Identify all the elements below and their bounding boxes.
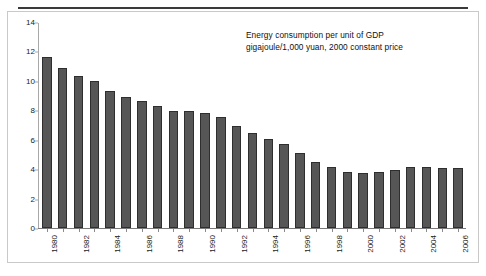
- bar: [311, 162, 320, 228]
- bar: [264, 139, 273, 228]
- bar: [105, 91, 114, 228]
- x-tick-label: 1998: [336, 235, 344, 253]
- x-tick-label: 1994: [272, 235, 280, 253]
- bar: [184, 111, 193, 228]
- x-tick-label: 1982: [83, 235, 91, 253]
- bar: [216, 117, 225, 228]
- y-tick-mark: [35, 52, 38, 53]
- chart-figure: Energy consumption per unit of GDP gigaj…: [0, 0, 486, 276]
- bar: [374, 172, 383, 228]
- x-tick-mark: [442, 229, 443, 232]
- bar: [121, 97, 130, 228]
- bar: [343, 172, 352, 228]
- x-tick-mark: [284, 229, 285, 232]
- x-tick-mark: [94, 229, 95, 232]
- x-tick-mark: [47, 229, 48, 232]
- x-tick-mark: [142, 229, 143, 232]
- y-tick-mark: [35, 170, 38, 171]
- y-tick-label: 12: [15, 48, 35, 56]
- x-tick-mark: [332, 229, 333, 232]
- bar-series: [39, 23, 466, 228]
- bar: [90, 81, 99, 228]
- bar: [453, 168, 462, 228]
- bar: [406, 167, 415, 228]
- x-tick-label: 2004: [430, 235, 438, 253]
- x-tick-mark: [63, 229, 64, 232]
- x-tick-mark: [221, 229, 222, 232]
- x-tick-mark: [426, 229, 427, 232]
- x-tick-mark: [79, 229, 80, 232]
- x-tick-mark: [126, 229, 127, 232]
- x-tick-mark: [173, 229, 174, 232]
- y-tick-mark: [35, 140, 38, 141]
- bar: [200, 113, 209, 228]
- y-tick-mark: [35, 111, 38, 112]
- x-tick-mark: [189, 229, 190, 232]
- y-tick-mark: [35, 199, 38, 200]
- y-tick-mark: [35, 81, 38, 82]
- bar: [279, 144, 288, 228]
- bar: [248, 133, 257, 228]
- x-tick-label: 1984: [114, 235, 122, 253]
- x-tick-mark: [379, 229, 380, 232]
- bar: [58, 68, 67, 228]
- x-tick-mark: [395, 229, 396, 232]
- x-tick-mark: [253, 229, 254, 232]
- x-tick-label: 1992: [241, 235, 249, 253]
- x-tick-mark: [110, 229, 111, 232]
- x-tick-mark: [205, 229, 206, 232]
- y-tick-label: 6: [15, 137, 35, 145]
- bar: [137, 101, 146, 228]
- x-tick-mark: [300, 229, 301, 232]
- bar: [327, 167, 336, 228]
- x-tick-label: 2000: [367, 235, 375, 253]
- x-tick-mark: [363, 229, 364, 232]
- bar: [232, 126, 241, 229]
- bar: [295, 153, 304, 228]
- x-tick-label: 1988: [177, 235, 185, 253]
- bar: [358, 173, 367, 228]
- x-tick-mark: [268, 229, 269, 232]
- y-tick-label: 8: [15, 107, 35, 115]
- bar: [42, 57, 51, 228]
- x-tick-label: 1986: [146, 235, 154, 253]
- y-tick-label: 10: [15, 78, 35, 86]
- x-tick-mark: [458, 229, 459, 232]
- bar: [390, 170, 399, 228]
- x-tick-mark: [411, 229, 412, 232]
- y-tick-mark: [35, 23, 38, 24]
- bar: [169, 111, 178, 228]
- x-tick-mark: [316, 229, 317, 232]
- x-tick-mark: [158, 229, 159, 232]
- top-divider-rule: [18, 7, 468, 9]
- bar: [422, 167, 431, 228]
- bar: [153, 106, 162, 228]
- y-tick-label: 0: [15, 225, 35, 233]
- y-tick-mark: [35, 229, 38, 230]
- x-tick-label: 2002: [399, 235, 407, 253]
- y-tick-label: 2: [15, 196, 35, 204]
- plot-area: 02468101214: [38, 23, 466, 229]
- x-tick-label: 1980: [51, 235, 59, 253]
- x-tick-label: 1996: [304, 235, 312, 253]
- x-tick-mark: [347, 229, 348, 232]
- y-tick-label: 4: [15, 166, 35, 174]
- x-tick-label: 1990: [209, 235, 217, 253]
- x-axis-labels: 1980198219841986198819901992199419961998…: [39, 229, 467, 274]
- x-tick-label: 2006: [462, 235, 470, 253]
- x-tick-mark: [237, 229, 238, 232]
- y-tick-label: 14: [15, 19, 35, 27]
- bar: [438, 168, 447, 228]
- bar: [74, 76, 83, 228]
